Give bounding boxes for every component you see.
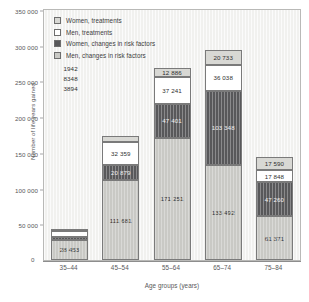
legend: Women, treatmentsMen, treatmentsWomen, c… <box>54 15 155 61</box>
x-axis-line <box>43 261 301 262</box>
bar-segment-value: 28 453 <box>60 246 80 253</box>
y-axis-ticks: 50 000100 000150 000200 000250 000300 00… <box>0 0 43 302</box>
bar-segment[interactable] <box>51 229 88 231</box>
bar-segment-value: 111 681 <box>110 217 132 224</box>
bar-segment[interactable] <box>51 237 88 240</box>
x-axis-tick-label: 55–64 <box>162 264 180 271</box>
bar-segment-value: 20 733 <box>213 54 233 61</box>
y-axis-tick-label: 350 000 <box>15 8 38 15</box>
bar-segment-value: 17 590 <box>265 160 285 167</box>
legend-item-label: Women, changes in risk factors <box>66 40 155 47</box>
x-axis-tick-label: 45–54 <box>111 264 129 271</box>
legend-item[interactable]: Men, treatments <box>54 27 155 39</box>
bar-segment[interactable]: 17 848 <box>256 170 293 183</box>
bar-segment[interactable]: 103 348 <box>205 91 242 165</box>
bar-segment-value: 61 371 <box>265 235 285 242</box>
bar-segment[interactable]: 61 371 <box>256 216 293 260</box>
x-axis-tick-label: 35–44 <box>60 264 78 271</box>
bar-segment[interactable]: 28 453 <box>51 240 88 260</box>
bar-segment-value: 36 038 <box>213 74 233 81</box>
legend-swatch-icon <box>54 17 61 24</box>
bar-segment[interactable] <box>102 136 139 142</box>
y-axis-tick-label: 100 000 <box>15 186 38 193</box>
bar-segment-value: 20 879 <box>111 169 131 176</box>
legend-swatch-icon <box>54 29 61 36</box>
stacked-bar-chart: Number of life years gained 50 000100 00… <box>0 0 309 302</box>
x-axis-tick-label: 75–84 <box>264 264 282 271</box>
bar-segment[interactable]: 133 492 <box>205 165 242 260</box>
bar-segment-value: 171 251 <box>160 195 183 202</box>
bar-segment-value: 12 886 <box>162 69 182 76</box>
bar-segment-value-outside: 1942 <box>64 65 78 72</box>
bar-segment[interactable]: 12 886 <box>154 68 191 77</box>
bar-segment-value: 32 359 <box>111 150 131 157</box>
bar-group[interactable]: 133 492103 34836 03820 733 <box>205 10 242 260</box>
bar-segment[interactable]: 20 733 <box>205 50 242 65</box>
bar-segment-value: 47 260 <box>265 196 285 203</box>
bar-segment[interactable]: 36 038 <box>205 65 242 91</box>
legend-swatch-icon <box>54 52 61 59</box>
y-axis-tick-label: 300 000 <box>15 43 38 50</box>
bar-segment[interactable]: 47 260 <box>256 182 293 216</box>
bar-segment[interactable]: 37 241 <box>154 77 191 104</box>
bar-segment[interactable]: 20 879 <box>102 165 139 180</box>
y-axis-tick-label: 250 000 <box>15 79 38 86</box>
bar-segment[interactable]: 111 681 <box>102 180 139 260</box>
legend-item-label: Women, treatments <box>66 17 122 24</box>
plot-area: 28 453111 68120 87932 359171 25147 40137… <box>43 9 301 261</box>
y-axis-tick-label: 50 000 <box>18 222 38 229</box>
bar-segment[interactable]: 47 401 <box>154 104 191 138</box>
bar-segment-value-outside: 8348 <box>64 75 78 82</box>
bar-segment-value: 103 348 <box>212 124 235 131</box>
bar-segment-value: 17 848 <box>265 173 285 180</box>
legend-swatch-icon <box>54 40 61 47</box>
bar-segment[interactable]: 17 590 <box>256 157 293 170</box>
legend-item-label: Men, treatments <box>66 29 112 36</box>
bar-segment[interactable]: 171 251 <box>154 138 191 260</box>
x-axis-tick-label: 65–74 <box>213 264 231 271</box>
y-axis-tick-label: 200 000 <box>15 115 38 122</box>
legend-item[interactable]: Women, changes in risk factors <box>54 38 155 50</box>
bar-segment-value-outside: 3894 <box>64 85 78 92</box>
legend-item-label: Men, changes in risk factors <box>66 52 146 59</box>
y-axis-origin-label: 0 <box>31 256 34 263</box>
bar-segment-value: 47 401 <box>162 117 182 124</box>
legend-item[interactable]: Men, changes in risk factors <box>54 50 155 62</box>
y-axis-tick-label: 150 000 <box>15 150 38 157</box>
bar-group[interactable]: 61 37147 26017 84817 590 <box>256 10 293 260</box>
bar-segment-value: 133 492 <box>212 209 235 216</box>
x-axis-ticks: 35–4445–5455–6465–7475–84 <box>43 264 301 276</box>
bar-group[interactable]: 171 25147 40137 24112 886 <box>154 10 191 260</box>
bar-segment[interactable] <box>51 231 88 237</box>
x-axis-title: Age groups (years) <box>43 282 301 289</box>
bar-segment-value: 37 241 <box>162 87 182 94</box>
bar-segment[interactable]: 32 359 <box>102 142 139 165</box>
legend-item[interactable]: Women, treatments <box>54 15 155 27</box>
